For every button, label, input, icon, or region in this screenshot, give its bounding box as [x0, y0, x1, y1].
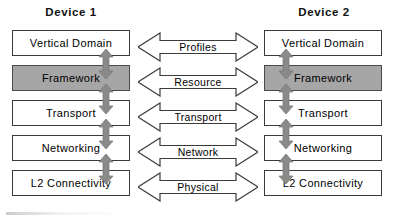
peer-link-physical: Physical	[138, 172, 258, 202]
device1-vertical-double-arrow-icon-2	[98, 84, 114, 114]
peer-link-transport: Transport	[138, 102, 258, 132]
peer-link-network: Network	[138, 137, 258, 167]
protocol-stack-diagram: Device 1 Device 2 Vertical Domain Framew…	[0, 0, 396, 219]
device2-vertical-double-arrow-icon-1	[278, 49, 294, 79]
device2-stack: Vertical Domain Framework Transport Netw…	[264, 30, 384, 206]
peer-link-profiles: Profiles	[138, 32, 258, 62]
layer-label: Networking	[294, 142, 353, 154]
device2-vertical-double-arrow-icon-3	[278, 119, 294, 149]
device1-title: Device 1	[12, 6, 130, 18]
layer-label: Transport	[298, 107, 348, 119]
device1-vertical-double-arrow-icon-4	[98, 154, 114, 184]
layer-label: Framework	[294, 72, 352, 84]
page-edge-artifact	[6, 212, 126, 215]
layer-label: Vertical Domain	[282, 37, 364, 49]
layer-label: Vertical Domain	[30, 37, 112, 49]
device2-vertical-double-arrow-icon-4	[278, 154, 294, 184]
device2-vertical-double-arrow-icon-2	[278, 84, 294, 114]
device1-stack: Vertical Domain Framework Transport Netw…	[12, 30, 132, 206]
device2-title: Device 2	[265, 6, 383, 18]
layer-label: L2 Connectivity	[283, 177, 363, 189]
device1-vertical-double-arrow-icon-3	[98, 119, 114, 149]
layer-label: Transport	[46, 107, 96, 119]
layer-label: Networking	[42, 142, 101, 154]
layer-label: Framework	[42, 72, 100, 84]
peer-link-resource: Resource	[138, 67, 258, 97]
device1-vertical-double-arrow-icon-1	[98, 49, 114, 79]
